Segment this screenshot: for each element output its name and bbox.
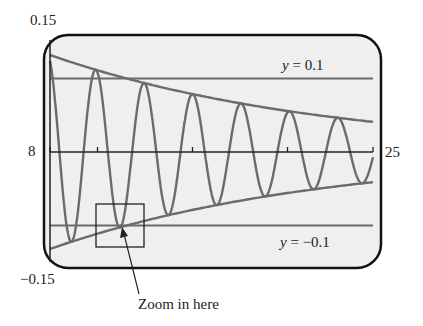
hline-top-eq: = 0.1 xyxy=(289,57,324,73)
hline-bottom-eq: = −0.1 xyxy=(287,234,330,250)
hline-bottom-var: y xyxy=(280,234,287,250)
y-min-label: −0.15 xyxy=(20,272,55,287)
calculator-screen-plot xyxy=(0,0,423,326)
callout-text: Zoom in here xyxy=(138,297,219,312)
hline-top-label: y = 0.1 xyxy=(282,58,323,73)
hline-top-var: y xyxy=(282,57,289,73)
hline-bottom-label: y = −0.1 xyxy=(280,235,330,250)
x-min-label: 8 xyxy=(28,144,36,159)
y-max-label: 0.15 xyxy=(30,13,56,28)
x-max-label: 25 xyxy=(385,145,400,160)
